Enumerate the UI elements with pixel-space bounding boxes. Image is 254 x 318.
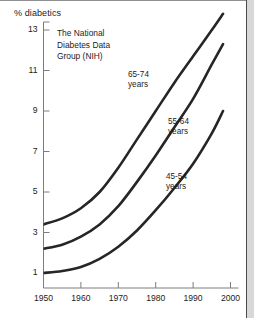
y-tick-label-13: 13 [20, 24, 38, 34]
x-tick-label-1990: 1990 [178, 293, 208, 303]
y-tick-label-3: 3 [20, 227, 38, 237]
chart-screenshot: % diabetics The National Diabetes Data G… [0, 0, 254, 318]
chart-plot-area [0, 0, 254, 318]
x-tick-label-1950: 1950 [29, 293, 59, 303]
y-tick-label-5: 5 [20, 186, 38, 196]
y-tick-label-9: 9 [20, 105, 38, 115]
y-tick-label-11: 11 [20, 65, 38, 75]
y-tick-label-7: 7 [20, 146, 38, 156]
y-tick-label-1: 1 [20, 267, 38, 277]
x-tick-label-1980: 1980 [141, 293, 171, 303]
source-annotation: The National Diabetes Data Group (NIH) [57, 28, 110, 63]
x-tick-label-1960: 1960 [66, 293, 96, 303]
x-tick-label-1970: 1970 [103, 293, 133, 303]
series-label-55-64: 55-64 years [168, 117, 189, 136]
series-label-45-54: 45-54 years [166, 172, 187, 191]
x-tick-label-2000: 2000 [216, 293, 246, 303]
tick-marks [44, 30, 231, 288]
series-line-45-54-years [44, 111, 224, 273]
series-label-65-74: 65-74 years [128, 70, 149, 89]
